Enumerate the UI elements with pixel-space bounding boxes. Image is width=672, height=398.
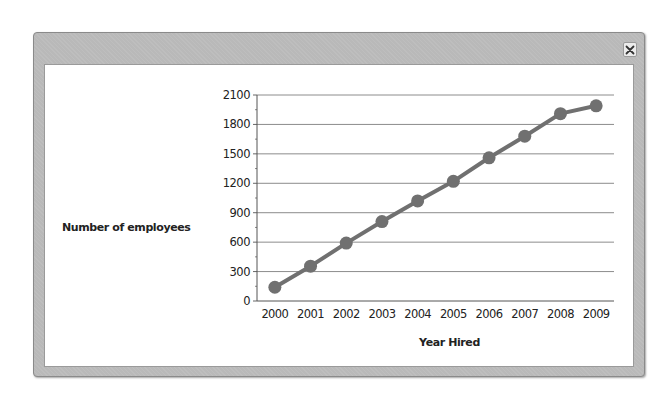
y-tick-label: 1500	[223, 147, 250, 161]
data-point[interactable]	[590, 99, 603, 112]
chart-content: Number of employees 03006009001200150018…	[44, 64, 634, 367]
line-chart: 0300600900120015001800210020002001200220…	[45, 65, 635, 368]
data-point[interactable]	[375, 215, 388, 228]
y-tick-label: 1200	[223, 176, 250, 190]
y-tick-label: 1800	[223, 117, 250, 131]
data-point[interactable]	[483, 151, 496, 164]
x-tick-label: 2006	[476, 307, 503, 321]
x-tick-label: 2003	[369, 307, 396, 321]
x-tick-label: 2007	[511, 307, 538, 321]
title-bar[interactable]	[34, 33, 644, 64]
chart-dialog-window: Number of employees 03006009001200150018…	[33, 32, 645, 377]
x-tick-label: 2001	[297, 307, 324, 321]
series-line	[275, 106, 596, 287]
x-tick-label: 2008	[547, 307, 574, 321]
x-tick-label: 2000	[261, 307, 288, 321]
x-axis-title: Year Hired	[418, 336, 480, 349]
data-point[interactable]	[304, 260, 317, 273]
x-tick-label: 2009	[583, 307, 610, 321]
x-tick-label: 2004	[404, 307, 431, 321]
close-button[interactable]	[623, 42, 637, 57]
x-tick-label: 2005	[440, 307, 467, 321]
y-tick-label: 900	[230, 206, 251, 220]
data-point[interactable]	[447, 175, 460, 188]
y-tick-label: 600	[230, 235, 251, 249]
data-point[interactable]	[411, 194, 424, 207]
y-tick-label: 300	[230, 265, 251, 279]
data-point[interactable]	[554, 107, 567, 120]
data-point[interactable]	[518, 130, 531, 143]
y-tick-label: 0	[243, 294, 250, 308]
data-point[interactable]	[268, 281, 281, 294]
close-icon	[625, 45, 635, 55]
y-tick-label: 2100	[223, 88, 250, 102]
x-tick-label: 2002	[333, 307, 360, 321]
data-point[interactable]	[340, 237, 353, 250]
